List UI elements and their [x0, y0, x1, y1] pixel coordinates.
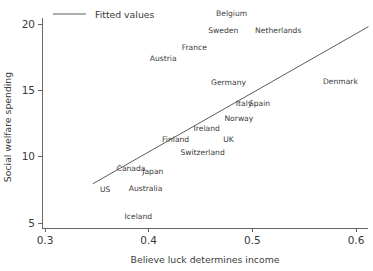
point-label-japan: Japan: [141, 167, 163, 176]
point-label-netherlands: Netherlands: [255, 26, 301, 35]
point-label-ireland: Ireland: [194, 124, 220, 133]
y-axis-title: Social welfare spending: [2, 72, 13, 182]
point-label-norway: Norway: [224, 114, 253, 123]
x-tick-label-0.3: 0.3: [37, 234, 54, 246]
point-label-australia: Australia: [129, 184, 163, 193]
point-label-spain: Spain: [249, 99, 270, 108]
x-tick-label-0.4: 0.4: [140, 234, 157, 246]
y-tick-label-5: 5: [28, 217, 35, 229]
y-tick-label-20: 20: [22, 18, 35, 30]
chart-legend: Fitted values: [53, 9, 155, 20]
fitted-values-line-segment: [93, 27, 369, 184]
point-label-canada: Canada: [117, 164, 146, 173]
point-label-sweden: Sweden: [208, 26, 238, 35]
y-tick-label-15: 15: [22, 84, 35, 96]
point-label-belgium: Belgium: [216, 9, 247, 18]
point-label-france: France: [182, 43, 208, 52]
x-axis-title: Believe luck determines income: [131, 254, 280, 265]
point-label-us: US: [100, 185, 111, 194]
x-tick-label-0.5: 0.5: [244, 234, 261, 246]
x-tick-label-0.6: 0.6: [348, 234, 365, 246]
point-label-finland: Finland: [162, 135, 189, 144]
data-point-labels: BelgiumSwedenNetherlandsFranceAustriaGer…: [100, 9, 359, 221]
fitted-values-line: [93, 27, 369, 184]
point-label-uk: UK: [223, 135, 235, 144]
point-label-switzerland: Switzerland: [180, 148, 224, 157]
point-label-germany: Germany: [211, 78, 246, 87]
point-label-iceland: Iceland: [125, 212, 153, 221]
scatter-plot-figure: 51015200.30.40.50.6 BelgiumSwedenNetherl…: [0, 0, 373, 271]
point-label-denmark: Denmark: [323, 77, 359, 86]
legend-label-fitted-values: Fitted values: [95, 9, 155, 20]
y-tick-label-10: 10: [22, 150, 35, 162]
chart-canvas: 51015200.30.40.50.6 BelgiumSwedenNetherl…: [0, 0, 373, 271]
point-label-austria: Austria: [150, 54, 177, 63]
